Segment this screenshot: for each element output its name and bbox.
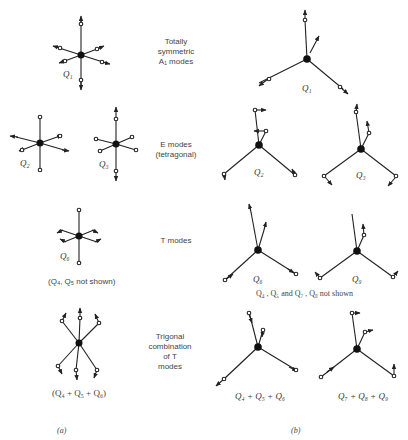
row2-description: E modes (tetragonal) [136,140,216,160]
row3-description: T modes [136,236,216,246]
row1-description: Totally symmetric A₁ modes [136,37,216,67]
a-q3-octahedron [94,107,138,181]
b-q6-label: Q₆ [253,274,263,284]
b-q9-pyramid [315,214,398,280]
a-q456-octahedron [56,308,101,380]
a-q1-label: Q₁ [63,69,73,79]
a-q2-label: Q₂ [20,158,30,168]
desc-line: (tetragonal) [136,150,216,160]
b-q456-label: Q₄ + Q₅ + Q₆ [235,391,285,401]
b-q789-pyramid [319,311,396,379]
desc-line: Trigonal [130,332,210,342]
b-q6-pyramid [223,204,298,282]
b-q2-label: Q₂ [254,167,264,177]
desc-line: E modes [136,140,216,150]
b-q3-label: Q₃ [356,170,366,180]
panel-a-label: (a) [57,426,66,435]
row4-description: Trigonal combination of T modes [130,332,210,372]
desc-line: Totally [136,37,216,47]
a-q3-label: Q₃ [99,159,109,169]
a-q1-octahedron [53,16,110,90]
b-q9-label: Q₉ [352,274,362,284]
b-q1-label: Q₁ [302,83,312,93]
desc-line: of T [130,352,210,362]
a-q6-label: Q₆ [60,251,70,261]
desc-line: T modes [136,236,216,246]
b-q789-label: Q₇ + Q₈ + Q₉ [338,391,388,401]
b-row3-caption: Q₄ , Q₅ and Q₇ , Q₈ not shown [256,289,353,298]
b-q1-pyramid [259,10,348,94]
desc-line: combination [130,342,210,352]
desc-line: symmetric [136,47,216,57]
panel-b-label: (b) [291,426,300,435]
desc-line: A₁ modes [136,57,216,67]
b-q456-pyramid [216,311,298,386]
a-row4-caption: (Q₄ + Q₅ + Q₆) [52,388,106,398]
a-row3-caption: (Q₄, Q₅ not shown) [48,277,115,286]
a-q2-octahedron [10,115,69,172]
desc-line: modes [130,362,210,372]
